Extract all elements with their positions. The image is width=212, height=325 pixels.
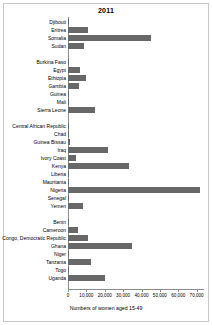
x-tick: [197, 289, 198, 292]
bar: [68, 267, 69, 274]
bar: [68, 259, 91, 266]
x-tick: [160, 289, 161, 292]
bar-row: [68, 178, 204, 186]
bar: [68, 219, 69, 226]
category-label: Congo, Democratic Republic: [0, 234, 66, 242]
bar: [68, 227, 78, 234]
category-label: Ivory Coast: [0, 154, 66, 162]
bar: [68, 131, 69, 138]
bar-row: [68, 186, 204, 194]
bar-row: [68, 138, 204, 146]
bar: [68, 155, 76, 162]
x-tick: [105, 289, 106, 292]
bar-row: [68, 130, 204, 138]
bar-row: [68, 90, 204, 98]
bar-row: [68, 82, 204, 90]
chart-figure: 2011 DjiboutiEritreaSomaliaSudanBurkina …: [0, 0, 212, 325]
bar-row: [68, 154, 204, 162]
x-axis-label: Numbers of women aged 15-49: [0, 305, 212, 311]
x-tick: [178, 289, 179, 292]
bar: [68, 75, 86, 82]
bar-row: [68, 266, 204, 274]
category-label: Djibouti: [0, 18, 66, 26]
bar: [68, 251, 69, 258]
bar: [68, 27, 88, 34]
category-label: Cameroon: [0, 226, 66, 234]
bar: [68, 99, 69, 106]
bar-row: [68, 74, 204, 82]
category-label: Sierra Leone: [0, 106, 66, 114]
category-label: Ghana: [0, 242, 66, 250]
bar-row: [68, 218, 204, 226]
bar-row: [68, 106, 204, 114]
category-label: Central African Republic: [0, 122, 66, 130]
bar-row: [68, 242, 204, 250]
category-label: Senegal: [0, 194, 66, 202]
category-label: Mali: [0, 98, 66, 106]
x-tick-label: 0: [67, 293, 70, 298]
bar-row: [68, 258, 204, 266]
bar-row: [68, 34, 204, 42]
bar-row: [68, 226, 204, 234]
x-tick-label: 30,000: [116, 293, 130, 298]
x-tick: [68, 289, 69, 292]
bar: [68, 243, 132, 250]
category-label: Niger: [0, 250, 66, 258]
bar: [68, 275, 105, 282]
bar: [68, 91, 69, 98]
x-tick-label: 70,000: [190, 293, 204, 298]
bar-row: [68, 42, 204, 50]
category-label: Burkina Faso: [0, 58, 66, 66]
bar-row: [68, 250, 204, 258]
bar-row: [68, 58, 204, 66]
category-label: Liberia: [0, 170, 66, 178]
bar-row: [68, 66, 204, 74]
bar: [68, 83, 79, 90]
bar: [68, 171, 69, 178]
bar: [68, 19, 69, 26]
chart-title: 2011: [0, 7, 212, 14]
category-label: Yemen: [0, 202, 66, 210]
x-tick: [142, 289, 143, 292]
category-label: Eritrea: [0, 26, 66, 34]
bar-row: [68, 122, 204, 130]
bar: [68, 123, 69, 130]
bar: [68, 203, 83, 210]
bar: [68, 43, 84, 50]
x-axis-line: [68, 289, 204, 290]
category-label: Chad: [0, 130, 66, 138]
x-tick: [86, 289, 87, 292]
category-label: Guinea Bissau: [0, 138, 66, 146]
x-tick: [123, 289, 124, 292]
bar: [68, 187, 200, 194]
bar: [68, 235, 88, 242]
x-tick-label: 50,000: [153, 293, 167, 298]
bar-row: [68, 162, 204, 170]
category-label: Guinea: [0, 90, 66, 98]
bar-row: [68, 170, 204, 178]
x-tick-label: 40,000: [134, 293, 148, 298]
bar: [68, 35, 151, 42]
category-label: Uganda: [0, 274, 66, 282]
bar: [68, 163, 129, 170]
bar-row: [68, 146, 204, 154]
x-tick-label: 60,000: [171, 293, 185, 298]
category-label: Gambia: [0, 82, 66, 90]
plot-area: [68, 17, 204, 289]
bar-row: [68, 98, 204, 106]
x-tick-label: 10,000: [79, 293, 93, 298]
bar-row: [68, 234, 204, 242]
bar: [68, 107, 95, 114]
bar: [68, 59, 69, 66]
bar: [68, 67, 80, 74]
bar-row: [68, 274, 204, 282]
category-label: Sudan: [0, 42, 66, 50]
bar: [68, 179, 69, 186]
category-label: Tanzania: [0, 258, 66, 266]
bar: [68, 195, 69, 202]
category-label: Egypt: [0, 66, 66, 74]
category-label: Togo: [0, 266, 66, 274]
category-label: Somalia: [0, 34, 66, 42]
category-label: Benin: [0, 218, 66, 226]
category-label: Mauritania: [0, 178, 66, 186]
